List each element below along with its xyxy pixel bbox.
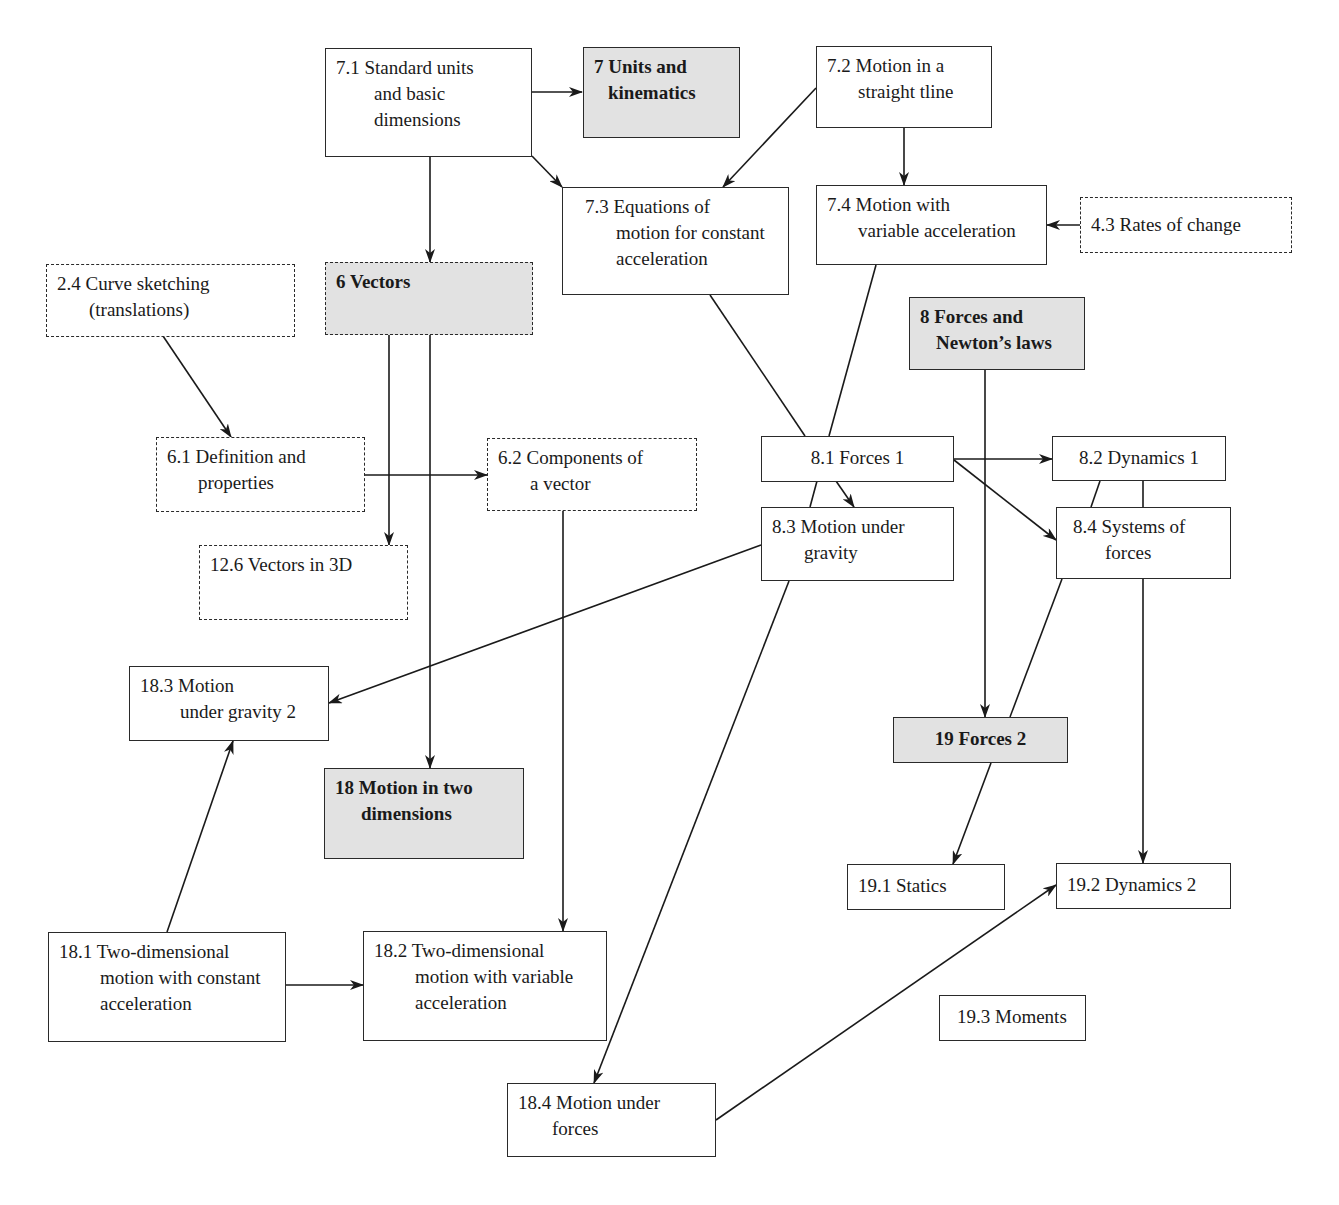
node-7-3-equations-of-motion: 7.3 Equations of motion for constant acc…	[562, 187, 789, 295]
node-2-4-curve-sketching: 2.4 Curve sketching (translations)	[46, 264, 295, 337]
node-label: 18 Motion in two	[335, 777, 473, 798]
node-7-2-straight-line: 7.2 Motion in a straight tline	[816, 46, 992, 128]
node-7-1-standard-units: 7.1 Standard units and basic dimensions	[325, 48, 532, 157]
node-18-3-motion-under-gravity-2: 18.3 Motion under gravity 2	[129, 666, 329, 741]
node-18-4-motion-under-forces: 18.4 Motion under forces	[507, 1083, 716, 1157]
node-label: straight tline	[827, 79, 981, 105]
node-6-2-components-of-vector: 6.2 Components of a vector	[487, 438, 697, 511]
edge-8_1-to-8_4	[954, 460, 1056, 540]
node-label: 18.3 Motion	[140, 675, 234, 696]
edge-8_4-to-19	[1010, 579, 1062, 717]
node-19-1-statics: 19.1 Statics	[847, 864, 1005, 910]
node-label: 6.2 Components of	[498, 447, 643, 468]
node-label: (translations)	[57, 297, 284, 323]
node-18-1-constant-acceleration-2d: 18.1 Two-dimensional motion with constan…	[48, 932, 286, 1042]
node-label: under gravity 2	[140, 699, 318, 725]
node-label: forces	[1073, 540, 1220, 566]
node-label: 18.4 Motion under	[518, 1092, 660, 1113]
edge-7_1-to-7_3	[532, 156, 562, 187]
edge-8_1-to-8_3-pass	[810, 481, 817, 507]
edge-8_3-to-18_4	[594, 581, 789, 1083]
node-label: 2.4 Curve sketching	[57, 273, 210, 294]
node-label: 19 Forces 2	[935, 728, 1026, 749]
node-4-3-rates-of-change: 4.3 Rates of change	[1080, 197, 1292, 253]
node-label: 18.2 Two-dimensional	[374, 940, 544, 961]
chapter-8-forces-and-newtons-laws: 8 Forces and Newton’s laws	[909, 297, 1085, 370]
edge-8_2-to-8_4-a	[1091, 481, 1100, 507]
node-label: motion for constant	[585, 220, 778, 246]
node-label: acceleration	[374, 990, 596, 1016]
edge-8_1-to-8_3	[836, 481, 854, 507]
node-label: and basic	[336, 81, 521, 107]
node-label: motion with variable	[374, 964, 596, 990]
node-label: 7.3 Equations of	[585, 196, 710, 217]
node-label: dimensions	[336, 107, 521, 133]
node-18-2-variable-acceleration-2d: 18.2 Two-dimensional motion with variabl…	[363, 931, 607, 1041]
node-label: 4.3 Rates of change	[1091, 214, 1241, 235]
node-label: 8.4 Systems of	[1073, 516, 1185, 537]
edge-2_4-to-6_1	[163, 336, 231, 437]
node-7-4-variable-acceleration: 7.4 Motion with variable acceleration	[816, 185, 1047, 265]
node-19-2-dynamics-2: 19.2 Dynamics 2	[1056, 863, 1231, 909]
node-label: a vector	[498, 471, 686, 497]
node-label: 8.3 Motion under	[772, 516, 904, 537]
node-label: Newton’s laws	[920, 330, 1074, 356]
chapter-7-units-and-kinematics: 7 Units and kinematics	[583, 47, 740, 138]
node-label: dimensions	[335, 801, 513, 827]
node-label: 19.3 Moments	[957, 1006, 1067, 1027]
node-8-1-forces-1: 8.1 Forces 1	[761, 436, 954, 482]
node-label: 8.2 Dynamics 1	[1079, 447, 1199, 468]
node-label: 19.1 Statics	[858, 875, 947, 896]
edge-19-to-19_1	[953, 763, 991, 864]
node-label: gravity	[772, 540, 943, 566]
chapter-19-forces-2: 19 Forces 2	[893, 717, 1068, 763]
node-label: 6.1 Definition and	[167, 446, 306, 467]
node-8-3-motion-under-gravity: 8.3 Motion under gravity	[761, 507, 954, 581]
node-12-6-vectors-in-3d: 12.6 Vectors in 3D	[199, 545, 408, 620]
node-label: motion with constant	[59, 965, 275, 991]
chapter-6-vectors: 6 Vectors	[325, 262, 533, 335]
edge-18_1-to-18_3	[167, 741, 233, 932]
node-label: variable acceleration	[827, 218, 1036, 244]
node-label: 12.6 Vectors in 3D	[210, 554, 352, 575]
node-label: 7.1 Standard units	[336, 57, 474, 78]
edge-7_4-to-8_1	[829, 265, 876, 436]
node-label: 7 Units and	[594, 56, 687, 77]
node-label: kinematics	[594, 80, 729, 106]
node-8-2-dynamics-1: 8.2 Dynamics 1	[1052, 436, 1226, 481]
edge-7_3-to-8_1	[710, 295, 805, 436]
node-label: 19.2 Dynamics 2	[1067, 874, 1196, 895]
node-label: 6 Vectors	[336, 271, 410, 292]
node-label: acceleration	[585, 246, 778, 272]
node-19-3-moments: 19.3 Moments	[939, 995, 1086, 1041]
node-label: 8.1 Forces 1	[811, 447, 904, 468]
node-6-1-definition-and-properties: 6.1 Definition and properties	[156, 437, 365, 512]
node-label: properties	[167, 470, 354, 496]
node-label: 8 Forces and	[920, 306, 1023, 327]
node-label: 7.2 Motion in a	[827, 55, 944, 76]
node-label: 18.1 Two-dimensional	[59, 941, 229, 962]
node-label: forces	[518, 1116, 705, 1142]
chapter-18-motion-in-two-dimensions: 18 Motion in two dimensions	[324, 768, 524, 859]
node-label: 7.4 Motion with	[827, 194, 950, 215]
node-8-4-systems-of-forces: 8.4 Systems of forces	[1056, 507, 1231, 579]
node-label: acceleration	[59, 991, 275, 1017]
